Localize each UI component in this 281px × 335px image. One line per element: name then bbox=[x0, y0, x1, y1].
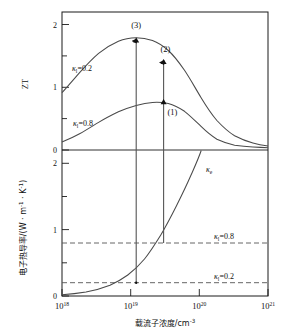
top-ytick-2: 2 bbox=[53, 21, 57, 30]
xtick-1e18: 1018 bbox=[55, 301, 69, 311]
bottom-ytick-2: 2 bbox=[53, 159, 57, 168]
annotation-refline-08: κl=0.8 bbox=[214, 232, 234, 242]
top-y-tick-labels: 0 1 2 bbox=[53, 21, 57, 156]
xtick-1e21: 1021 bbox=[261, 301, 275, 311]
annotation-refline-02: κl=0.2 bbox=[214, 272, 234, 282]
top-y-axis-title: ZT bbox=[20, 78, 30, 89]
top-y-axis-ticks bbox=[62, 25, 69, 151]
data-markers bbox=[133, 37, 166, 284]
reference-lines bbox=[62, 243, 268, 283]
curve-kappa-l-02 bbox=[62, 38, 268, 146]
top-ytick-1: 1 bbox=[53, 83, 57, 92]
marker-point-2 bbox=[161, 59, 167, 64]
annotation-kappa-e: κe bbox=[206, 165, 213, 175]
top-ytick-0: 0 bbox=[53, 146, 57, 155]
bottom-ytick-0: 0 bbox=[53, 292, 57, 301]
label-point-2: (2) bbox=[161, 44, 171, 54]
xtick-1e19: 1019 bbox=[124, 301, 138, 311]
label-point-3: (3) bbox=[131, 20, 141, 30]
x-axis-title: 载流子浓度/cm-3 bbox=[135, 318, 196, 328]
bottom-y-axis-ticks bbox=[62, 163, 69, 296]
plot-frame bbox=[62, 12, 268, 296]
curve-kappa-e bbox=[62, 151, 201, 295]
figure-root: 0 1 2 0 1 2 1018 1019 1020 1021 bbox=[0, 0, 281, 335]
x-tick-labels: 1018 1019 1020 1021 bbox=[55, 301, 275, 311]
annotation-kappa-l-02: κl=0.2 bbox=[72, 64, 92, 74]
marker-point-1 bbox=[161, 99, 167, 104]
bottom-y-axis-title: 电子热导率/(W · m-1 · K-1) bbox=[18, 180, 28, 276]
bottom-y-tick-labels: 0 1 2 bbox=[53, 159, 57, 301]
chart-svg: 0 1 2 0 1 2 1018 1019 1020 1021 bbox=[0, 0, 281, 335]
label-point-1: (1) bbox=[168, 107, 178, 117]
bottom-ytick-1: 1 bbox=[53, 226, 57, 235]
annotation-kappa-l-08: κl=0.8 bbox=[73, 119, 93, 129]
xtick-1e20: 1020 bbox=[192, 301, 206, 311]
marker-kappa-e-02 bbox=[135, 282, 137, 284]
